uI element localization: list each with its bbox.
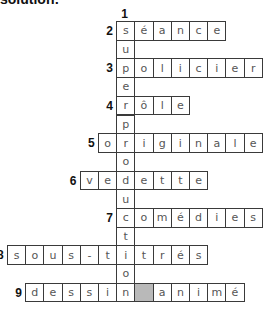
clue-number-4: 4 xyxy=(106,100,113,112)
letter-cell: o xyxy=(98,133,117,153)
letter-cell: u xyxy=(43,245,62,265)
clue-number-8: 8 xyxy=(0,249,4,261)
letter-cell: t xyxy=(134,245,153,265)
letter-cell: i xyxy=(207,58,226,78)
letter-cell: l xyxy=(225,133,244,153)
letter-cell: i xyxy=(134,133,153,153)
letter-cell: o xyxy=(116,264,135,284)
letter-cell: p xyxy=(116,58,135,78)
letter-cell: i xyxy=(171,58,190,78)
letter-cell: n xyxy=(171,283,190,303)
letter-cell: e xyxy=(207,21,226,41)
letter-cell: r xyxy=(244,58,263,78)
clue-number-7: 7 xyxy=(106,212,113,224)
letter-cell: s xyxy=(80,283,99,303)
letter-cell: u xyxy=(116,40,135,60)
letter-cell: é xyxy=(225,283,244,303)
clue-number-6: 6 xyxy=(70,175,77,187)
clue-number-5: 5 xyxy=(88,137,95,149)
letter-cell: e xyxy=(225,58,244,78)
letter-cell: g xyxy=(153,133,172,153)
letter-cell: r xyxy=(116,96,135,116)
letter-cell: e xyxy=(225,208,244,228)
letter-cell: n xyxy=(189,133,208,153)
letter-cell: e xyxy=(43,283,62,303)
letter-cell: e xyxy=(244,133,263,153)
letter-cell: l xyxy=(153,96,172,116)
letter-cell: p xyxy=(116,115,135,135)
letter-cell: i xyxy=(116,245,135,265)
letter-cell: c xyxy=(116,208,135,228)
letter-cell: s xyxy=(62,283,81,303)
clue-number-3: 3 xyxy=(106,62,113,74)
letter-cell: i xyxy=(98,283,117,303)
letter-cell: m xyxy=(153,208,172,228)
clue-number-9: 9 xyxy=(15,287,22,299)
letter-cell: e xyxy=(134,171,153,191)
letter-cell: v xyxy=(80,171,99,191)
letter-cell: é xyxy=(171,245,190,265)
blank-cell xyxy=(134,283,153,303)
letter-cell: n xyxy=(171,21,190,41)
letter-cell: ô xyxy=(134,96,153,116)
letter-cell: s xyxy=(189,245,208,265)
letter-cell: m xyxy=(207,283,226,303)
letter-cell: t xyxy=(153,171,172,191)
letter-cell: e xyxy=(98,171,117,191)
letter-cell: l xyxy=(153,58,172,78)
letter-cell: s xyxy=(116,21,135,41)
letter-cell: é xyxy=(134,21,153,41)
letter-cell: a xyxy=(153,21,172,41)
letter-cell: e xyxy=(171,96,190,116)
letter-cell: é xyxy=(171,208,190,228)
solution-heading: solution: xyxy=(0,0,59,7)
letter-cell: n xyxy=(116,283,135,303)
letter-cell: i xyxy=(171,133,190,153)
letter-cell: a xyxy=(153,283,172,303)
letter-cell: c xyxy=(189,58,208,78)
letter-cell: d xyxy=(189,208,208,228)
clue-number-2: 2 xyxy=(106,25,113,37)
letter-cell: a xyxy=(207,133,226,153)
letter-cell: d xyxy=(25,283,44,303)
letter-cell: s xyxy=(62,245,81,265)
letter-cell: - xyxy=(80,245,99,265)
letter-cell: o xyxy=(25,245,44,265)
letter-cell: t xyxy=(116,227,135,247)
letter-cell: o xyxy=(134,208,153,228)
letter-cell: r xyxy=(116,133,135,153)
letter-cell: t xyxy=(171,171,190,191)
letter-cell: u xyxy=(116,189,135,209)
letter-cell: o xyxy=(134,58,153,78)
clue-number-1: 1 xyxy=(121,8,128,20)
letter-cell: s xyxy=(7,245,26,265)
letter-cell: i xyxy=(207,208,226,228)
letter-cell: d xyxy=(116,171,135,191)
letter-cell: s xyxy=(244,208,263,228)
letter-cell: o xyxy=(116,152,135,172)
letter-cell: r xyxy=(153,245,172,265)
letter-cell: c xyxy=(189,21,208,41)
letter-cell: t xyxy=(98,245,117,265)
letter-cell: e xyxy=(116,77,135,97)
letter-cell: i xyxy=(189,283,208,303)
letter-cell: e xyxy=(189,171,208,191)
